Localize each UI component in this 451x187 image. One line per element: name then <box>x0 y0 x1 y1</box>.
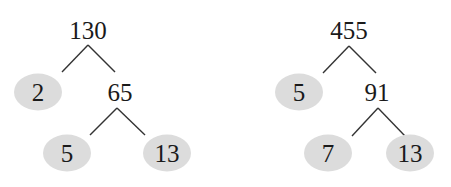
edge-65-5 <box>90 108 117 135</box>
composite-node: 91 <box>365 80 390 105</box>
prime-leaf: 5 <box>43 135 91 172</box>
prime-leaf: 5 <box>275 74 323 111</box>
edge-130-65 <box>88 45 115 72</box>
edge-455-5 <box>323 46 349 73</box>
composite-node: 65 <box>108 80 133 105</box>
prime-leaf: 13 <box>386 135 434 172</box>
root-node: 455 <box>330 18 368 43</box>
prime-leaf: 13 <box>143 135 191 172</box>
edge-91-7 <box>352 108 378 136</box>
root-node: 130 <box>69 18 107 43</box>
prime-leaf: 7 <box>304 135 352 172</box>
prime-leaf: 2 <box>14 74 62 111</box>
edge-91-13 <box>378 108 405 136</box>
edge-65-13 <box>117 108 145 135</box>
edge-130-2 <box>62 45 88 72</box>
edge-455-91 <box>349 46 376 73</box>
